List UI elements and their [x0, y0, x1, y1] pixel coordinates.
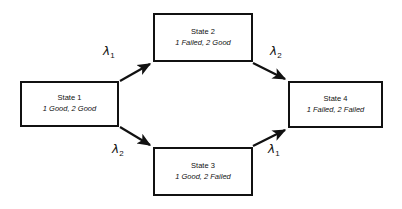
transition-rate-label-3-to-4: λ1: [268, 143, 280, 158]
lambda-subscript: 1: [275, 149, 279, 158]
transition-rate-label-1-to-3: λ2: [112, 143, 124, 158]
state-box-state-4[interactable]: State 4 1 Failed, 2 Failed: [288, 81, 383, 128]
state-box-state-1[interactable]: State 1 1 Good, 2 Good: [20, 81, 119, 127]
arrow-state1-to-state3: [120, 127, 150, 145]
state-description: 1 Failed, 2 Failed: [307, 105, 365, 116]
state-description: 1 Good, 2 Good: [43, 104, 96, 115]
state-description: 1 Failed, 2 Good: [175, 38, 230, 49]
lambda-subscript: 1: [110, 51, 114, 60]
lambda-subscript: 2: [119, 149, 123, 158]
state-title: State 1: [58, 93, 82, 104]
arrow-state1-to-state2: [120, 64, 150, 81]
state-box-state-3[interactable]: State 3 1 Good, 2 Failed: [153, 147, 253, 196]
state-title: State 3: [191, 161, 215, 172]
state-description: 1 Good, 2 Failed: [175, 172, 230, 183]
transition-rate-label-2-to-4: λ2: [270, 45, 282, 60]
state-box-state-2[interactable]: State 2 1 Failed, 2 Good: [153, 13, 253, 62]
transition-rate-label-1-to-2: λ1: [103, 45, 115, 60]
lambda-subscript: 2: [277, 51, 281, 60]
state-title: State 2: [191, 27, 215, 38]
state-transition-diagram: State 1 1 Good, 2 Good State 2 1 Failed,…: [0, 0, 402, 209]
state-title: State 4: [324, 94, 348, 105]
arrow-state2-to-state4: [253, 63, 285, 79]
